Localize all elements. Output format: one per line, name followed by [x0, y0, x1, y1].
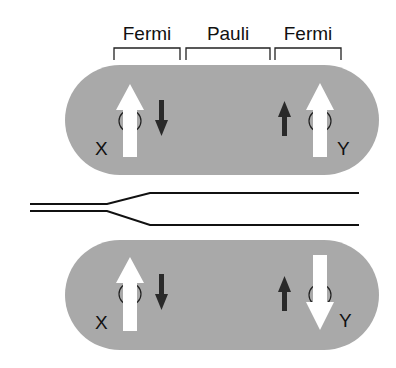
bracket-fermi-left — [114, 48, 180, 60]
splitting-lines — [30, 193, 359, 225]
bracket-pauli — [186, 48, 270, 60]
bottom-capsule: X Y — [65, 240, 379, 350]
upper-level-line — [30, 193, 359, 204]
label-x: X — [95, 138, 108, 159]
label-y: Y — [339, 310, 352, 331]
label-y: Y — [337, 138, 350, 159]
capsule-shape — [65, 65, 379, 175]
label-fermi-left: Fermi — [123, 23, 172, 44]
bracket-fermi-right — [275, 48, 341, 60]
brackets — [114, 48, 341, 60]
pauli-fermi-diagram: Fermi Pauli Fermi X Y — [0, 0, 396, 368]
lower-level-line — [30, 211, 359, 225]
label-pauli: Pauli — [207, 23, 249, 44]
label-fermi-right: Fermi — [284, 23, 333, 44]
capsule-shape — [65, 240, 379, 350]
top-capsule: X Y — [65, 65, 379, 175]
label-x: X — [95, 312, 108, 333]
